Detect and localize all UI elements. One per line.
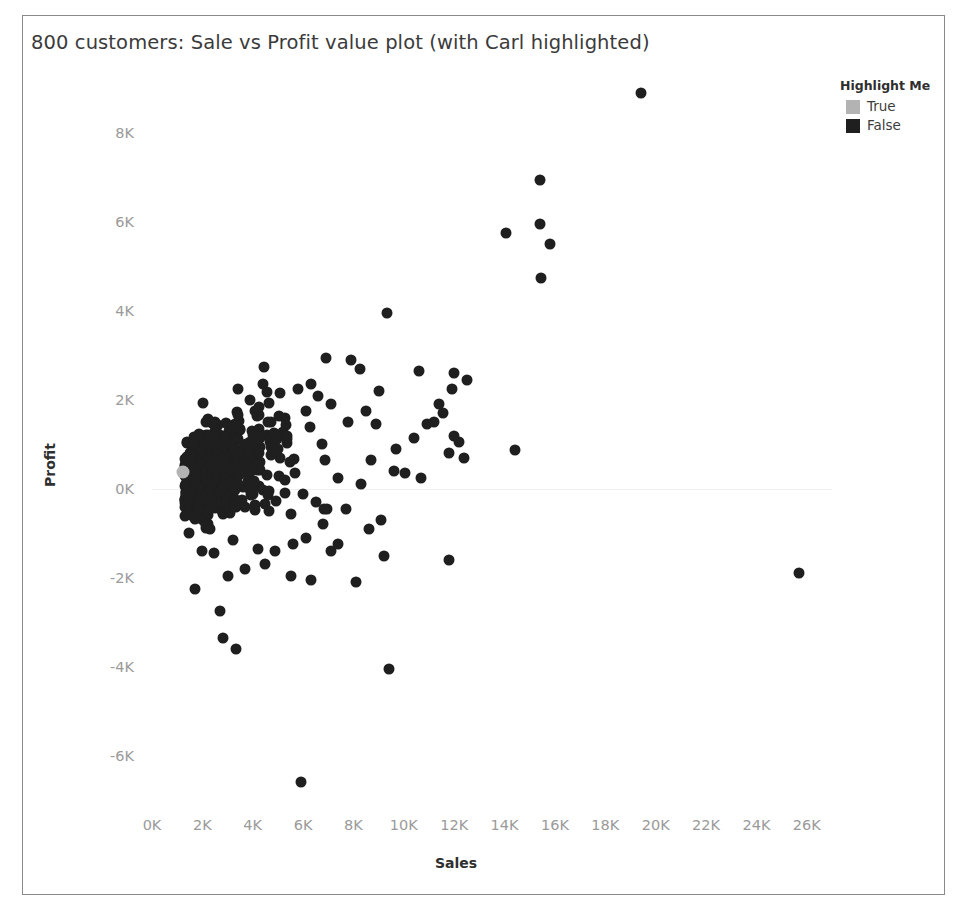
data-point[interactable] [300,406,311,417]
data-point[interactable] [204,504,215,515]
data-point[interactable] [290,468,301,479]
data-point[interactable] [378,550,389,561]
data-point[interactable] [232,384,243,395]
data-point[interactable] [400,468,411,479]
data-point[interactable] [270,546,281,557]
data-point[interactable] [263,506,274,517]
data-point[interactable] [345,355,356,366]
legend-item-true[interactable]: True [846,97,940,116]
data-point[interactable] [231,643,242,654]
data-point[interactable] [196,446,207,457]
data-point[interactable] [459,452,470,463]
data-point[interactable] [449,368,460,379]
data-point[interactable] [250,406,261,417]
data-point[interactable] [391,443,402,454]
data-point[interactable] [260,559,271,570]
data-point[interactable] [461,375,472,386]
data-point[interactable] [215,606,226,617]
data-point[interactable] [421,419,432,430]
data-point[interactable] [268,428,279,439]
data-point[interactable] [305,575,316,586]
data-point[interactable] [544,239,555,250]
data-point[interactable] [293,383,304,394]
data-point[interactable] [285,457,296,468]
data-point[interactable] [208,548,219,559]
data-point[interactable] [244,446,255,457]
data-point[interactable] [437,408,448,419]
data-point[interactable] [255,457,266,468]
data-point[interactable] [280,412,291,423]
data-point[interactable] [446,383,457,394]
data-point[interactable] [252,543,263,554]
data-point[interactable] [536,272,547,283]
data-point[interactable] [500,228,511,239]
data-point[interactable] [205,485,216,496]
data-point[interactable] [320,352,331,363]
data-point[interactable] [444,448,455,459]
data-point[interactable] [416,472,427,483]
data-point[interactable] [388,466,399,477]
data-point[interactable] [222,570,233,581]
data-point[interactable] [183,528,194,539]
data-point[interactable] [263,397,274,408]
data-point[interactable] [197,397,208,408]
data-point[interactable] [245,395,256,406]
data-point[interactable] [376,515,387,526]
data-point[interactable] [272,443,283,454]
data-point[interactable] [319,455,330,466]
data-point[interactable] [229,442,240,453]
data-point[interactable] [197,546,208,557]
data-point[interactable] [285,508,296,519]
data-point[interactable] [233,409,244,420]
data-point[interactable] [263,485,274,496]
data-point[interactable] [534,175,545,186]
data-point[interactable] [285,570,296,581]
data-point[interactable] [509,445,520,456]
data-point[interactable] [227,535,238,546]
data-point[interactable] [262,417,273,428]
data-point[interactable] [366,455,377,466]
data-point[interactable] [217,482,228,493]
data-point[interactable] [454,437,465,448]
data-point[interactable] [373,386,384,397]
highlighted-data-point[interactable] [177,466,190,479]
data-point[interactable] [237,466,248,477]
data-point[interactable] [206,418,217,429]
data-point[interactable] [343,417,354,428]
data-point[interactable] [204,523,215,534]
data-point[interactable] [305,422,316,433]
data-point[interactable] [262,470,273,481]
data-point[interactable] [305,379,316,390]
data-point[interactable] [408,432,419,443]
plot-area[interactable] [152,80,832,800]
data-point[interactable] [534,219,545,230]
data-point[interactable] [220,417,231,428]
data-point[interactable] [383,663,394,674]
data-point[interactable] [444,555,455,566]
data-point[interactable] [310,497,321,508]
data-point[interactable] [279,475,290,486]
data-point[interactable] [361,406,372,417]
data-point[interactable] [313,390,324,401]
data-point[interactable] [318,519,329,530]
data-point[interactable] [297,488,308,499]
data-point[interactable] [219,459,230,470]
data-point[interactable] [250,504,261,515]
legend-item-false[interactable]: False [846,116,940,135]
data-point[interactable] [351,577,362,588]
data-point[interactable] [235,423,246,434]
data-point[interactable] [186,487,197,498]
data-point[interactable] [382,308,393,319]
data-point[interactable] [229,501,240,512]
data-point[interactable] [316,439,327,450]
data-point[interactable] [230,484,241,495]
data-point[interactable] [280,488,291,499]
data-point[interactable] [371,419,382,430]
data-point[interactable] [356,479,367,490]
data-point[interactable] [240,563,251,574]
data-point[interactable] [281,433,292,444]
data-point[interactable] [363,523,374,534]
data-point[interactable] [190,463,201,474]
data-point[interactable] [259,362,270,373]
data-point[interactable] [288,539,299,550]
